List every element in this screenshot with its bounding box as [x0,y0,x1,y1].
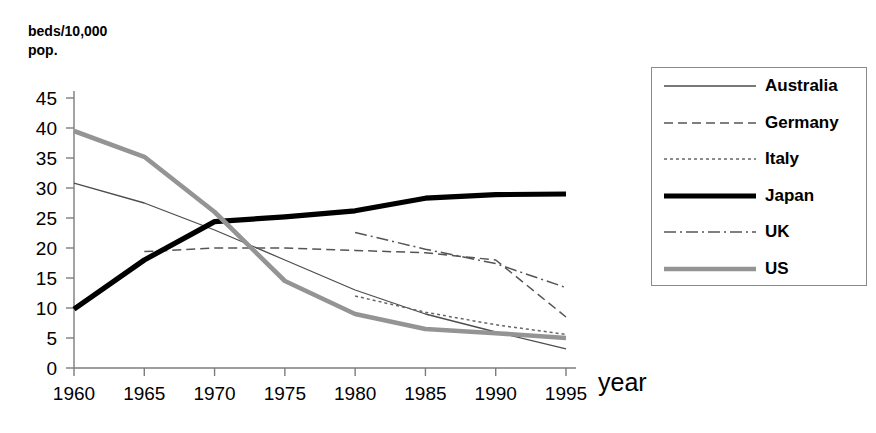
legend-swatch-icon [662,187,758,205]
legend-item-germany[interactable]: Germany [652,105,866,142]
y-tick-label: 5 [46,328,57,349]
y-tick-label: 45 [36,88,57,109]
x-tick-label: 1995 [545,383,587,404]
legend-swatch-icon [662,260,758,278]
chart-legend: AustraliaGermanyItalyJapanUKUS [651,67,867,286]
legend-label: Germany [765,113,839,133]
y-tick-label: 20 [36,238,57,259]
x-tick-label: 1975 [264,383,306,404]
y-tick-label: 30 [36,178,57,199]
legend-label: UK [765,222,790,242]
x-axis-ticks: 19601965197019751980198519901995 [53,368,587,404]
legend-item-japan[interactable]: Japan [652,178,866,215]
axis-lines [74,91,576,368]
series-line-us [74,131,566,338]
x-tick-label: 1965 [123,383,165,404]
legend-item-italy[interactable]: Italy [652,141,866,178]
legend-label: US [765,259,789,279]
series-lines [74,131,566,349]
x-tick-label: 1985 [404,383,446,404]
y-tick-label: 15 [36,268,57,289]
legend-label: Australia [765,76,838,96]
legend-swatch-icon [662,77,758,95]
y-tick-label: 35 [36,148,57,169]
legend-item-australia[interactable]: Australia [652,68,866,105]
series-line-germany [144,248,566,317]
y-tick-label: 25 [36,208,57,229]
legend-label: Japan [765,186,814,206]
series-line-uk [355,232,566,287]
y-tick-label: 0 [46,358,57,379]
x-tick-label: 1990 [475,383,517,404]
y-axis-ticks: 051015202530354045 [36,88,74,379]
legend-swatch-icon [662,114,758,132]
x-axis-title: year [598,368,647,397]
y-tick-label: 40 [36,118,57,139]
legend-item-us[interactable]: US [652,251,866,288]
series-line-italy [355,296,566,334]
x-tick-label: 1980 [334,383,376,404]
x-tick-label: 1970 [193,383,235,404]
legend-swatch-icon [662,150,758,168]
legend-swatch-icon [662,223,758,241]
x-tick-label: 1960 [53,383,95,404]
chart-page: beds/10,000 pop. 051015202530354045 1960… [0,0,876,433]
legend-item-uk[interactable]: UK [652,214,866,251]
legend-label: Italy [765,149,799,169]
y-tick-label: 10 [36,298,57,319]
